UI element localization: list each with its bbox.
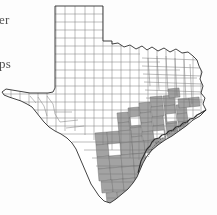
texas-county-map xyxy=(0,0,217,215)
texas-map-svg xyxy=(0,0,217,215)
scanned-page: er ps xyxy=(0,0,217,215)
